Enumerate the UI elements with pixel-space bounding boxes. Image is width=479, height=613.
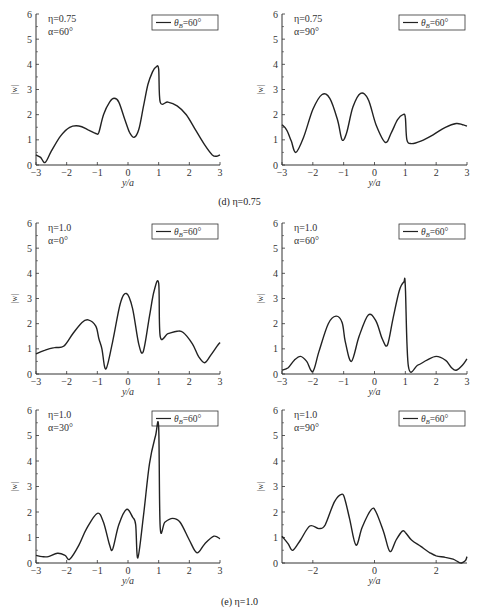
y-tick-label: 4 [273,59,278,70]
x-tick-label: 3 [218,565,223,576]
caption-d: (d) η=0.75 [0,196,479,207]
annotation-eta: η=1.0 [294,409,317,420]
y-tick-label: 2 [273,507,278,518]
x-tick-label: 3 [218,376,223,387]
data-series-line [36,281,220,369]
y-tick-label: 0 [273,558,278,569]
y-tick-label: 2 [27,318,32,329]
y-tick-label: 1 [27,343,32,354]
annotation-eta: η=0.75 [48,13,76,24]
x-tick-label: 2 [434,565,439,576]
y-tick-label: 2 [273,318,278,329]
chart-panel-5: 0123456−3−2−10123y/a|w|η=1.0α=30°θB=60° [10,405,223,587]
x-tick-label: −2 [308,376,319,387]
chart-panel-3: 0123456−3−2−10123y/a|w|η=1.0α=0°θB=60° [10,218,223,398]
y-tick-label: 4 [27,456,32,467]
x-tick-label: −1 [338,376,349,387]
y-tick-label: 5 [273,430,278,441]
y-tick-label: 3 [273,84,278,95]
x-tick-label: −1 [92,167,103,178]
x-tick-label: 1 [156,167,161,178]
x-tick-label: 3 [218,167,223,178]
x-axis-label: y/a [121,575,134,586]
x-tick-label: 2 [434,167,439,178]
x-tick-label: −1 [338,167,349,178]
caption-e: (e) η=1.0 [0,596,479,607]
legend-label: θB=60° [421,227,449,238]
y-tick-label: 5 [27,430,32,441]
annotation-alpha: α=90° [294,26,319,37]
annotation-eta: η=0.75 [294,13,322,24]
y-tick-label: 4 [27,59,32,70]
y-tick-label: 1 [273,532,278,543]
legend-label: θB=60° [421,414,449,425]
y-tick-label: 6 [273,218,278,229]
y-tick-label: 3 [27,293,32,304]
y-tick-label: 5 [273,243,278,254]
x-tick-label: −3 [277,376,288,387]
x-tick-label: −2 [308,565,319,576]
y-tick-label: 5 [27,243,32,254]
y-tick-label: 5 [27,34,32,45]
y-tick-label: 6 [273,405,278,416]
figure: 0123456−3−2−10123y/a|w|η=0.75α=60°θB=60°… [0,0,479,613]
x-tick-label: 1 [403,167,408,178]
y-axis-label: |w| [256,482,265,491]
x-tick-label: −3 [31,167,42,178]
chart-panel-4: 0123456−3−2−10123y/a|w|η=1.0α=60°θB=60° [256,218,470,398]
y-tick-label: 4 [273,456,278,467]
y-tick-label: 6 [27,405,32,416]
data-series-line [36,422,220,560]
y-axis-label: |w| [256,294,265,303]
x-tick-label: −2 [61,376,72,387]
x-tick-label: 2 [187,167,192,178]
annotation-eta: η=1.0 [48,409,71,420]
legend-label: θB=60° [174,227,202,238]
x-tick-label: −3 [31,565,42,576]
y-tick-label: 1 [273,134,278,145]
data-series-line [36,66,220,163]
x-tick-label: −2 [61,565,72,576]
annotation-eta: η=1.0 [294,222,317,233]
y-tick-label: 5 [273,34,278,45]
x-tick-label: −1 [92,565,103,576]
y-tick-label: 3 [27,84,32,95]
data-series-line [282,278,467,372]
x-axis-label: y/a [121,177,134,188]
y-tick-label: 3 [273,481,278,492]
annotation-alpha: α=30° [48,422,73,433]
y-axis-label: |w| [10,294,19,303]
y-tick-label: 1 [27,532,32,543]
x-axis-label: y/a [121,386,134,397]
x-tick-label: 2 [187,565,192,576]
annotation-alpha: α=60° [48,26,73,37]
x-axis-label: y/a [367,177,380,188]
annotation-eta: η=1.0 [48,222,71,233]
data-series-line [282,494,467,563]
x-axis-label: y/a [367,386,380,397]
y-tick-label: 6 [273,9,278,20]
y-axis-label: |w| [10,482,19,491]
x-axis-label: y/a [367,575,380,586]
x-tick-label: −2 [308,167,319,178]
annotation-alpha: α=0° [48,235,68,246]
y-tick-label: 1 [273,343,278,354]
x-tick-label: 3 [465,376,470,387]
y-tick-label: 6 [27,9,32,20]
legend-label: θB=60° [174,414,202,425]
y-axis-label: |w| [10,85,19,94]
annotation-alpha: α=90° [294,422,319,433]
x-tick-label: −1 [92,376,103,387]
chart-panel-2: 0123456−3−2−10123y/a|w|η=0.75α=90°θB=60° [256,9,470,189]
x-tick-label: 2 [187,376,192,387]
y-axis-label: |w| [256,85,265,94]
x-tick-label: 3 [465,167,470,178]
x-tick-label: 1 [403,376,408,387]
x-tick-label: 2 [434,376,439,387]
chart-panel-6: 0123456−202y/a|w|η=1.0α=90°θB=60° [256,405,467,587]
legend-label: θB=60° [421,18,449,29]
data-series-line [282,93,467,152]
y-tick-label: 2 [27,507,32,518]
y-tick-label: 2 [27,109,32,120]
y-tick-label: 6 [27,218,32,229]
